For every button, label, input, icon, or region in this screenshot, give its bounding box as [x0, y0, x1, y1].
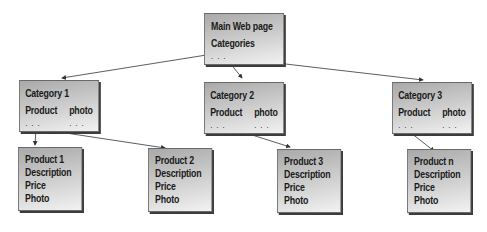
- main-title: Main Web page: [211, 21, 273, 32]
- category-product-label: Product: [398, 107, 430, 118]
- arrow-category-1-to-product-2: [46, 130, 165, 148]
- product-n-box: Product n Description Price Photo: [407, 149, 471, 213]
- category-product-dots: . . .: [210, 120, 225, 130]
- product-price: Price: [284, 182, 305, 193]
- product-3-box: Product 3 Description Price Photo: [277, 149, 341, 213]
- product-photo: Photo: [414, 195, 438, 206]
- category-product-label: Product: [210, 107, 242, 118]
- category-1-box: Category 1 Product photo . . . . . .: [19, 80, 99, 132]
- product-title: Product 2: [155, 155, 194, 166]
- category-product-label: Product: [25, 105, 57, 116]
- product-2-box: Product 2 Description Price Photo: [148, 148, 212, 212]
- category-3-box: Category 3 Product photo . . . . . .: [392, 82, 472, 134]
- product-price: Price: [414, 182, 435, 193]
- category-product-dots: . . .: [398, 120, 413, 130]
- product-price: Price: [155, 181, 176, 192]
- category-photo-dots: . . .: [69, 118, 84, 128]
- product-price: Price: [25, 180, 46, 191]
- product-description: Description: [414, 169, 460, 180]
- category-photo-label: photo: [254, 107, 278, 118]
- product-title: Product n: [414, 156, 453, 167]
- product-photo: Photo: [155, 194, 179, 205]
- category-photo-dots: . . .: [254, 120, 269, 130]
- category-photo-label: photo: [442, 107, 466, 118]
- main-web-page-box: Main Web page Categories . . .: [204, 13, 284, 65]
- main-dots: . . .: [211, 51, 226, 61]
- product-description: Description: [25, 167, 71, 178]
- category-photo-dots: . . .: [442, 120, 457, 130]
- category-product-dots: . . .: [25, 118, 40, 128]
- product-title: Product 3: [284, 156, 323, 167]
- category-title: Category 1: [25, 88, 69, 99]
- product-photo: Photo: [284, 195, 308, 206]
- product-description: Description: [284, 169, 330, 180]
- arrow-main-to-category-1: [62, 53, 219, 78]
- product-title: Product 1: [25, 154, 64, 165]
- category-title: Category 3: [398, 90, 442, 101]
- main-subtitle: Categories: [211, 38, 255, 49]
- category-2-box: Category 2 Product photo . . . . . .: [204, 82, 284, 134]
- product-photo: Photo: [25, 193, 49, 204]
- category-photo-label: photo: [69, 105, 93, 116]
- product-description: Description: [155, 168, 201, 179]
- product-1-box: Product 1 Description Price Photo: [18, 147, 82, 211]
- category-title: Category 2: [210, 90, 254, 101]
